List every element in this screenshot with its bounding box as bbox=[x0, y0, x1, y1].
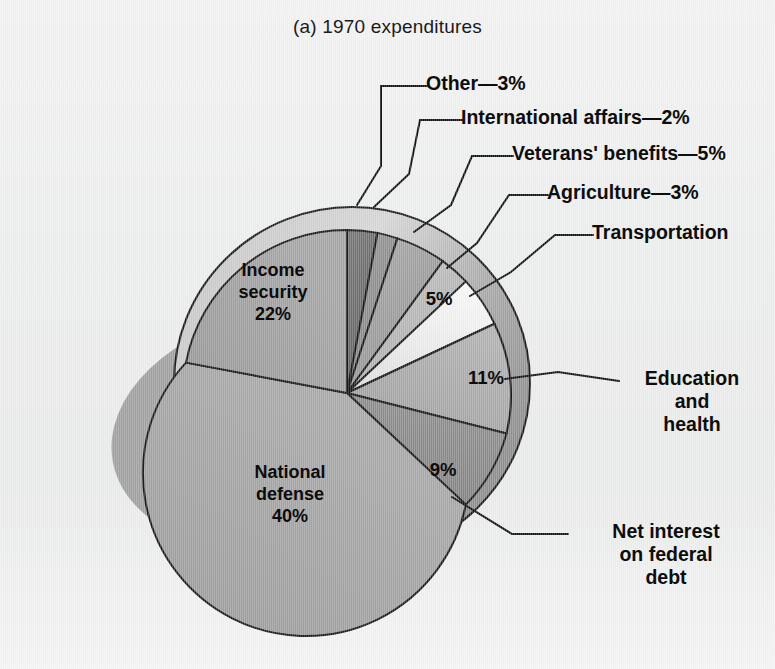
callout-label-agriculture: Agriculture—3% bbox=[547, 181, 699, 204]
inside-label-income-security: Income security 22% bbox=[198, 260, 348, 326]
callout-net-interest-line3: debt bbox=[566, 566, 766, 589]
inside-percent-transportation: 5% bbox=[409, 288, 469, 311]
callout-net-interest-line2: on federal bbox=[566, 543, 766, 566]
callout-label-international-affairs: International affairs—2% bbox=[461, 106, 690, 129]
national-defense-line1: National bbox=[215, 462, 365, 484]
callout-education-line3: health bbox=[619, 413, 765, 436]
income-security-line1: Income bbox=[198, 260, 348, 282]
leader-line-veterans-benefits bbox=[414, 156, 513, 232]
callout-label-other: Other—3% bbox=[426, 72, 526, 95]
callout-label-net-interest: Net interest on federal debt bbox=[566, 520, 766, 589]
callout-education-line1: Education bbox=[619, 367, 765, 390]
leader-line-international-affairs bbox=[374, 120, 462, 207]
income-security-line2: security bbox=[198, 282, 348, 304]
callout-net-interest-line1: Net interest bbox=[566, 520, 766, 543]
callout-label-transportation: Transportation bbox=[592, 221, 729, 244]
figure-canvas: (a) 1970 expenditures Other—3% Internati… bbox=[0, 0, 775, 669]
inside-percent-net-interest: 9% bbox=[413, 459, 473, 482]
national-defense-line2: defense bbox=[215, 484, 365, 506]
inside-label-national-defense: National defense 40% bbox=[215, 462, 365, 528]
income-security-percent: 22% bbox=[198, 304, 348, 326]
inside-percent-education-and-health: 11% bbox=[453, 367, 519, 390]
leader-line-other bbox=[357, 86, 427, 205]
national-defense-percent: 40% bbox=[215, 506, 365, 528]
chart-title: (a) 1970 expenditures bbox=[0, 16, 775, 38]
callout-label-veterans-benefits: Veterans' benefits—5% bbox=[512, 142, 726, 165]
callout-education-line2: and bbox=[619, 390, 765, 413]
callout-label-education-and-health: Education and health bbox=[619, 367, 765, 436]
